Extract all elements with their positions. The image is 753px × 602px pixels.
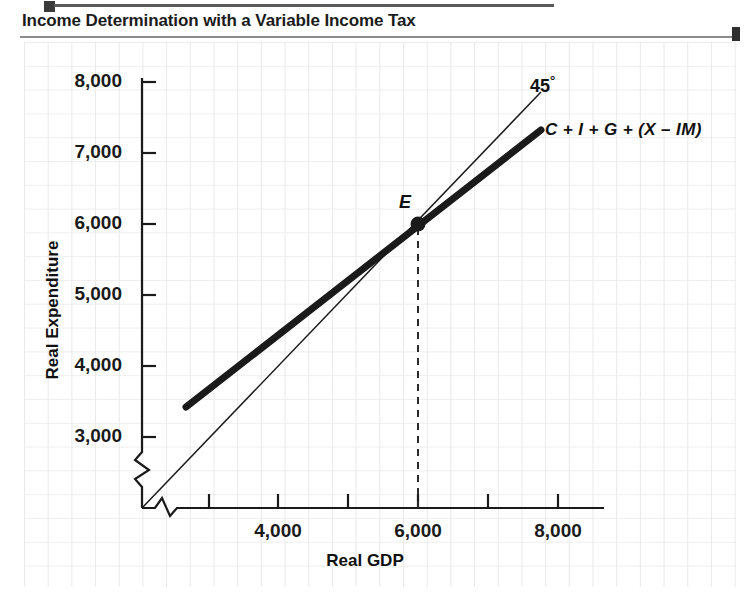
y-tick-label-7000: 7,000 (30, 141, 122, 163)
chart-area: 8,000 7,000 6,000 5,000 4,000 3,000 4,00… (0, 0, 753, 602)
expenditure-line (186, 130, 541, 407)
equilibrium-point-label: E (399, 192, 411, 213)
forty-five-degree-line (142, 92, 541, 508)
y-axis-ticks (142, 82, 156, 437)
forty-five-degree-value: 45 (530, 76, 550, 96)
y-tick-label-3000: 3,000 (30, 425, 122, 447)
x-tick-label-8000: 8,000 (503, 520, 613, 542)
forty-five-degree-label: 45° (530, 73, 555, 97)
x-axis-ticks (209, 494, 558, 508)
y-axis-line (135, 78, 149, 508)
degree-symbol: ° (550, 73, 555, 88)
y-axis-title: Real Expenditure (43, 230, 63, 390)
x-axis-title: Real GDP (305, 551, 425, 571)
x-tick-label-6000: 6,000 (363, 520, 473, 542)
y-tick-label-8000: 8,000 (30, 70, 122, 92)
x-axis-line (142, 498, 604, 516)
equilibrium-point-marker (411, 217, 426, 232)
expenditure-line-label: C + I + G + (X – IM) (545, 120, 702, 140)
x-tick-label-4000: 4,000 (223, 520, 333, 542)
